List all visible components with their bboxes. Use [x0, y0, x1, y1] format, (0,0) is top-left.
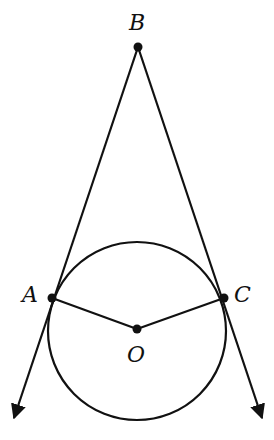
ray-bc — [138, 47, 262, 418]
label-a: A — [20, 282, 38, 307]
label-b: B — [128, 10, 145, 35]
label-o: O — [127, 342, 145, 367]
geometry-diagram: B A C O — [0, 0, 274, 440]
point-b — [134, 43, 143, 52]
label-c: C — [234, 282, 251, 307]
ray-ba — [14, 47, 138, 418]
point-a — [48, 294, 57, 303]
point-o — [133, 325, 142, 334]
radius-oa — [52, 298, 137, 329]
point-c — [220, 294, 229, 303]
radius-oc — [137, 298, 224, 329]
